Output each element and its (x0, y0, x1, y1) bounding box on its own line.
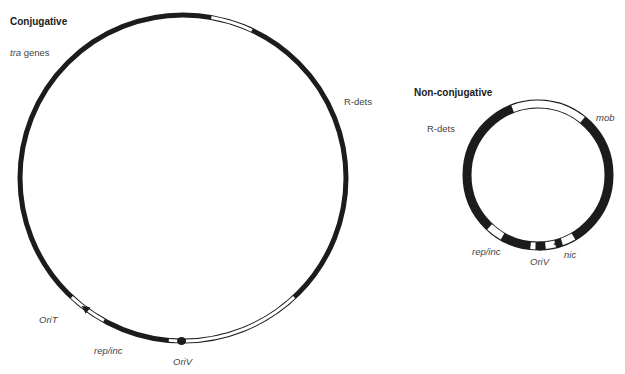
conjugative-open-segment (186, 297, 294, 341)
conjugative-open-segment (169, 340, 178, 341)
conjugative-plasmid-circle (20, 15, 346, 345)
orit-label: OriT (39, 314, 57, 325)
nonconj-rdets-label: R-dets (427, 123, 455, 134)
tra-genes-label: tra genes (10, 47, 50, 58)
nonconj-repinc-label: rep/inc (472, 246, 501, 257)
tra-italic: tra (10, 47, 21, 58)
nonconjugative-dna-ring (467, 104, 609, 246)
nonconjugative-open-segment (490, 227, 503, 237)
genes-text: genes (21, 47, 50, 58)
nonconjugative-title: Non-conjugative (414, 87, 492, 98)
plasmid-diagram (0, 0, 625, 374)
origin-dot-icon (536, 241, 545, 250)
mob-label: mob (596, 112, 614, 123)
conjugative-title: Conjugative (10, 16, 67, 27)
conj-oriv-label: OriV (173, 356, 192, 367)
origin-dot-icon (178, 337, 186, 345)
nonconjugative-plasmid-circle (467, 104, 609, 250)
conjugative-dna-ring (20, 15, 346, 341)
conjugative-open-segment (211, 17, 252, 30)
nic-label: nic (564, 249, 576, 260)
conj-repinc-label: rep/inc (94, 345, 123, 356)
nonconj-oriv-label: OriV (530, 256, 549, 267)
conj-rdets-label: R-dets (344, 96, 372, 107)
